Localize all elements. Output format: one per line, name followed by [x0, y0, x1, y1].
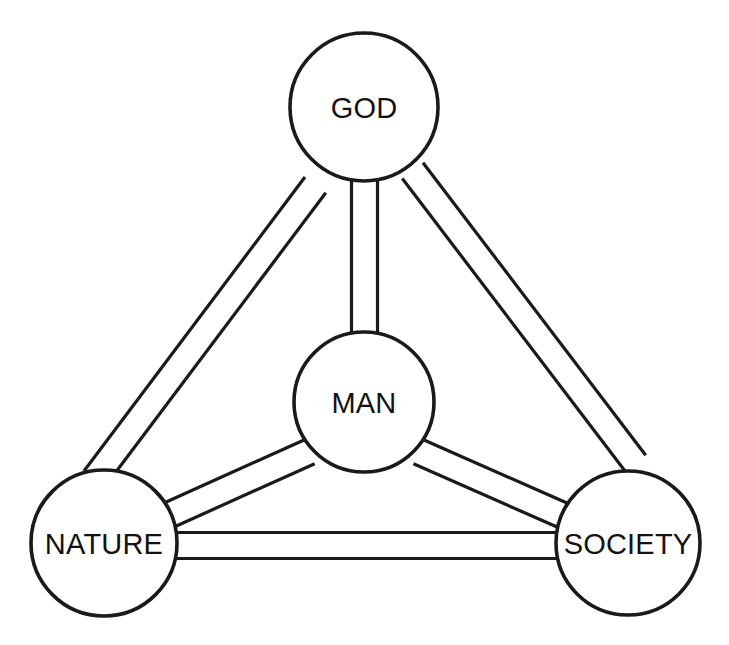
- edge-man-nature-line-a: [164, 440, 304, 503]
- edge-god-society-line-b: [423, 163, 646, 456]
- node-nature[interactable]: NATURE: [31, 470, 177, 616]
- edge-man-society-line-a: [424, 440, 567, 503]
- edge-nature-society[interactable]: [174, 533, 558, 559]
- node-society[interactable]: SOCIETY: [556, 471, 700, 615]
- edge-god-nature-line-a: [84, 177, 305, 471]
- node-god-label: GOD: [331, 92, 398, 124]
- node-man[interactable]: MAN: [294, 332, 434, 472]
- diagram-canvas: GOD MAN NATURE SOCIETY: [0, 0, 729, 645]
- node-man-label: MAN: [331, 387, 396, 419]
- edge-god-nature[interactable]: [84, 177, 326, 487]
- edge-god-society-line-a: [402, 179, 625, 472]
- node-layer: GOD MAN NATURE SOCIETY: [31, 33, 700, 616]
- edge-god-society[interactable]: [402, 163, 645, 471]
- edge-man-nature-line-b: [175, 464, 315, 527]
- edge-god-man[interactable]: [352, 178, 378, 334]
- node-society-label: SOCIETY: [564, 528, 693, 560]
- edge-man-society[interactable]: [414, 440, 568, 527]
- edge-man-society-line-b: [414, 464, 557, 527]
- node-god[interactable]: GOD: [290, 33, 438, 181]
- edge-god-nature-line-b: [105, 193, 326, 487]
- node-nature-label: NATURE: [45, 528, 163, 560]
- tetrad-diagram: GOD MAN NATURE SOCIETY: [0, 0, 729, 645]
- edge-man-nature[interactable]: [164, 440, 315, 527]
